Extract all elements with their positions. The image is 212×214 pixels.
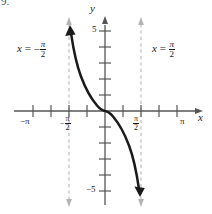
tangent-graph-figure: 9. y x 5 −5 −π π − π 2 π 2 x = − π 2 x =… — [0, 0, 212, 214]
y-axis-name-label: y — [90, 3, 95, 14]
x-tick-label-minus-half-pi: − π 2 — [60, 115, 71, 132]
fraction-denominator: 2 — [169, 50, 176, 59]
fraction-denominator: 2 — [133, 124, 139, 132]
y-tick-label-5: 5 — [92, 25, 97, 34]
fraction-denominator: 2 — [40, 50, 47, 59]
equation-equals-sign: = — [25, 42, 31, 54]
equation-variable: x — [152, 42, 157, 54]
right-asymptote-equation-label: x = π 2 — [152, 40, 175, 59]
equation-equals-sign: = — [160, 42, 166, 54]
x-tick-label-pi: π — [180, 117, 185, 126]
fraction-denominator: 2 — [65, 124, 71, 132]
x-axis-name-label: x — [198, 112, 203, 123]
problem-number-label: 9. — [1, 0, 9, 7]
x-tick-label-half-pi: π 2 — [133, 115, 139, 132]
equation-fraction: π 2 — [169, 40, 176, 59]
half-pi-fraction: π 2 — [133, 115, 139, 132]
y-tick-label-minus-5: −5 — [86, 185, 96, 194]
half-pi-fraction: π 2 — [65, 115, 71, 132]
left-asymptote-equation-label: x = − π 2 — [17, 40, 46, 59]
graph-canvas — [0, 0, 212, 214]
equation-variable: x — [17, 42, 22, 54]
equation-fraction: π 2 — [40, 40, 47, 59]
x-tick-label-minus-pi: −π — [20, 117, 30, 126]
